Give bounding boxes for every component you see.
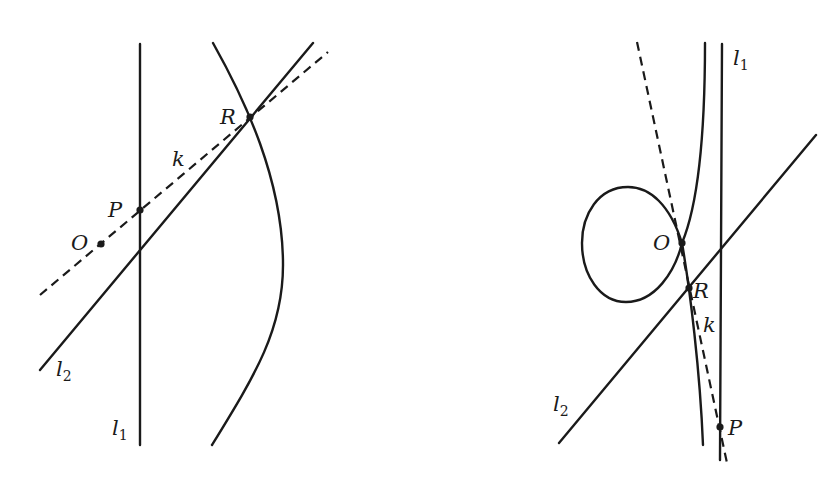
label-k-right: k: [703, 313, 716, 337]
point-R-right: [685, 284, 692, 291]
label-l2-right: l2: [553, 392, 569, 419]
line-k-right: [637, 42, 727, 463]
left-figure: R k P O l2 l1: [40, 43, 328, 445]
label-P-right: P: [727, 416, 743, 440]
label-k-left: k: [172, 147, 185, 171]
label-l2-left-sub: 2: [63, 368, 72, 384]
diagram-canvas: R k P O l2 l1 l1 O R k l2 P: [0, 0, 824, 481]
point-O-right: [678, 239, 685, 246]
label-l2-left-main: l: [56, 357, 63, 381]
line-l2-left: [40, 43, 313, 370]
label-l1-left-sub: 1: [119, 427, 128, 443]
label-O-right: O: [653, 231, 670, 255]
label-l2-right-main: l: [553, 392, 560, 416]
label-P-left: P: [107, 198, 123, 222]
label-l1-right-main: l: [733, 46, 740, 70]
label-R-left: R: [219, 105, 236, 129]
label-l1-right-sub: 1: [740, 57, 749, 73]
point-P-right: [716, 423, 723, 430]
point-P-left: [136, 206, 143, 213]
point-O-left: [97, 240, 104, 247]
label-l2-right-sub: 2: [560, 403, 569, 419]
right-figure: l1 O R k l2 P: [553, 42, 816, 463]
curve-left: [212, 43, 283, 445]
point-R-left: [246, 113, 253, 120]
line-k-left: [40, 52, 328, 295]
label-l1-left-main: l: [112, 416, 119, 440]
line-l1-right: [720, 44, 722, 460]
label-l2-left: l2: [56, 357, 72, 384]
label-l1-right: l1: [733, 46, 749, 73]
label-R-right: R: [692, 279, 709, 303]
label-l1-left: l1: [112, 416, 128, 443]
label-O-left: O: [71, 231, 88, 255]
